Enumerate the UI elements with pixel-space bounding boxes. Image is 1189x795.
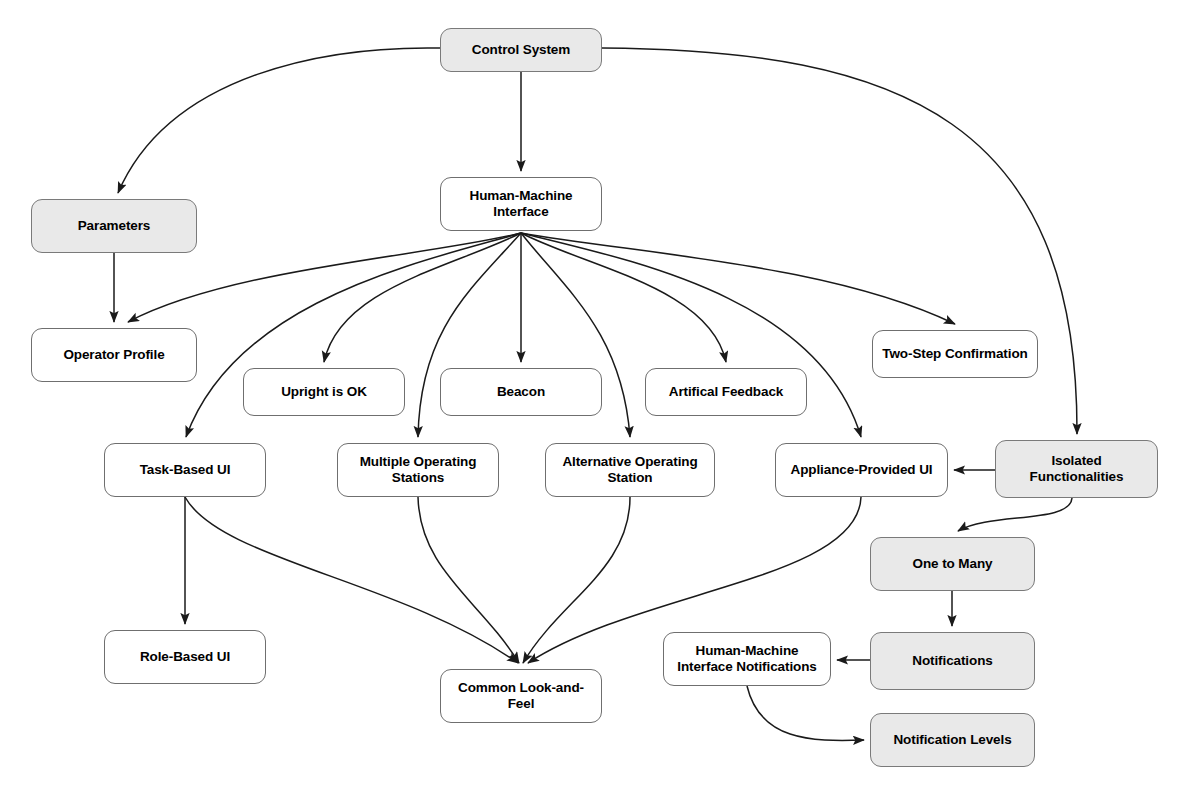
node-task-based-ui[interactable]: Task-Based UI xyxy=(104,443,266,497)
node-label: Control System xyxy=(472,42,570,58)
node-label: Notification Levels xyxy=(893,732,1011,748)
node-label: Two-Step Confirmation xyxy=(882,346,1027,362)
node-notification-levels[interactable]: Notification Levels xyxy=(870,713,1035,767)
node-label: Appliance-Provided UI xyxy=(791,462,933,478)
node-label: Common Look-and- Feel xyxy=(458,680,584,713)
node-label: Beacon xyxy=(497,384,545,400)
node-isolated-functionalities[interactable]: Isolated Functionalities xyxy=(995,440,1158,498)
node-alternative-operating-station[interactable]: Alternative Operating Station xyxy=(545,443,715,497)
node-multiple-operating-stations[interactable]: Multiple Operating Stations xyxy=(337,443,499,497)
node-appliance-provided-ui[interactable]: Appliance-Provided UI xyxy=(775,443,948,497)
node-operator-profile[interactable]: Operator Profile xyxy=(31,328,197,382)
node-label: Artifical Feedback xyxy=(669,384,784,400)
node-role-based-ui[interactable]: Role-Based UI xyxy=(104,630,266,684)
node-label: Alternative Operating Station xyxy=(562,454,697,487)
node-notifications[interactable]: Notifications xyxy=(870,632,1035,690)
node-label: Operator Profile xyxy=(63,347,164,363)
node-upright-is-ok[interactable]: Upright is OK xyxy=(243,368,405,416)
node-two-step-confirmation[interactable]: Two-Step Confirmation xyxy=(872,330,1038,378)
node-common-look-and-feel[interactable]: Common Look-and- Feel xyxy=(440,669,602,723)
node-label: One to Many xyxy=(913,556,993,572)
node-label: Human-Machine Interface Notifications xyxy=(677,643,816,676)
node-label: Task-Based UI xyxy=(140,462,231,478)
node-artifical-feedback[interactable]: Artifical Feedback xyxy=(645,368,807,416)
diagram-canvas: Control SystemParametersHuman-Machine In… xyxy=(0,0,1189,795)
node-one-to-many[interactable]: One to Many xyxy=(870,537,1035,591)
node-control-system[interactable]: Control System xyxy=(440,28,602,72)
node-label: Isolated Functionalities xyxy=(1030,453,1124,486)
node-label: Multiple Operating Stations xyxy=(360,454,477,487)
node-label: Role-Based UI xyxy=(140,649,230,665)
node-hmi-notifications[interactable]: Human-Machine Interface Notifications xyxy=(663,632,831,686)
node-label: Human-Machine Interface xyxy=(470,188,573,221)
node-human-machine-interface[interactable]: Human-Machine Interface xyxy=(440,177,602,231)
node-label: Notifications xyxy=(912,653,992,669)
node-label: Parameters xyxy=(78,218,151,234)
node-label: Upright is OK xyxy=(281,384,367,400)
node-parameters[interactable]: Parameters xyxy=(31,199,197,253)
node-beacon[interactable]: Beacon xyxy=(440,368,602,416)
node-layer: Control SystemParametersHuman-Machine In… xyxy=(0,0,1189,795)
